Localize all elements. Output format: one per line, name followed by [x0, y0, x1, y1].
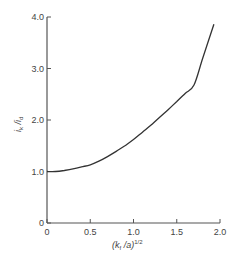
y-ticks: 01.02.03.04.0 — [31, 12, 51, 228]
x-tick-label: 0.5 — [84, 227, 97, 237]
y-tick-label: 4.0 — [31, 12, 44, 22]
x-ticks: 00.51.01.52.0 — [44, 219, 226, 237]
x-axis-label: (kf /a)1/2 — [112, 239, 143, 251]
y-tick-label: 3.0 — [31, 64, 44, 74]
y-tick-label: 0 — [39, 218, 44, 228]
x-tick-label: 1.5 — [170, 227, 183, 237]
y-tick-label: 2.0 — [31, 115, 44, 125]
y-axis-label: ik /id — [13, 117, 24, 132]
x-tick-label: 0 — [44, 227, 49, 237]
x-tick-label: 1.0 — [127, 227, 140, 237]
chart: 01.02.03.04.0 00.51.01.52.0 (kf /a)1/2 i… — [0, 0, 235, 264]
axes — [47, 17, 220, 223]
x-tick-label: 2.0 — [214, 227, 227, 237]
data-curve — [47, 24, 214, 171]
y-tick-label: 1.0 — [31, 167, 44, 177]
